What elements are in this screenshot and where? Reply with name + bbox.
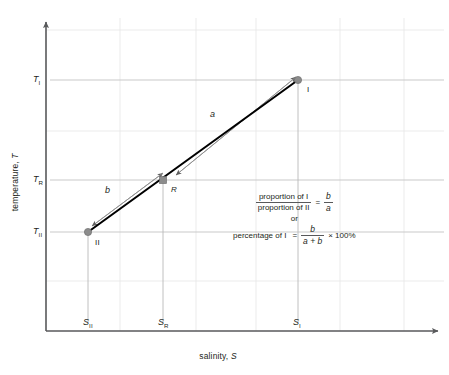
point-label-R: R xyxy=(171,186,177,194)
b-over-a-fraction: b a xyxy=(324,191,333,213)
rhs-numerator-b: b xyxy=(324,191,333,202)
segment-label-b: b xyxy=(105,186,110,195)
equals-sign-one: = xyxy=(311,198,324,207)
axis-lines xyxy=(46,22,438,331)
plot-canvas xyxy=(0,0,449,375)
x-tick-label-S-two: SII xyxy=(83,318,93,329)
formula-row-proportion: proportion of I proportion of II = b a xyxy=(233,191,356,213)
marker-point-R xyxy=(160,177,167,184)
grid-lines xyxy=(46,18,444,331)
proportion-fraction: proportion of I proportion of II xyxy=(256,192,312,213)
ts-mixing-diagram: TI TR TII SII SR SI I R II a b temperatu… xyxy=(0,0,449,375)
y-tick-label-T-R: TR xyxy=(33,175,43,186)
segment-label-a: a xyxy=(210,110,215,119)
pct-numerator-b: b xyxy=(308,224,317,235)
marker-point-two xyxy=(84,228,91,235)
equals-sign-two: = xyxy=(288,231,301,240)
x-tick-label-S-one: SI xyxy=(293,318,301,329)
pct-denominator-a-plus-b: a + b xyxy=(301,235,324,247)
point-label-one: I xyxy=(307,86,309,94)
point-label-two: II xyxy=(95,239,100,247)
y-tick-label-T-two: TII xyxy=(33,227,42,238)
proportion-denominator: proportion of II xyxy=(256,202,312,213)
y-tick-label-T-one: TI xyxy=(33,75,40,86)
proportion-formula-annotation: proportion of I proportion of II = b a o… xyxy=(233,191,356,246)
percentage-label: percentage of I xyxy=(233,231,288,240)
formula-or-connector: or xyxy=(233,213,356,224)
proportion-numerator: proportion of I xyxy=(257,192,310,202)
marker-point-one xyxy=(294,76,301,83)
rhs-denominator-a: a xyxy=(324,202,333,214)
arrow-segment-b-back xyxy=(92,173,163,226)
x-tick-label-S-R: SR xyxy=(158,318,169,329)
x-axis-title: salinity, S xyxy=(163,352,273,361)
formula-row-percentage: percentage of I = b a + b × 100% xyxy=(233,224,356,246)
y-axis-title: temperature, T xyxy=(11,134,20,230)
b-over-a-plus-b-fraction: b a + b xyxy=(301,224,324,246)
times-hundred-percent: × 100% xyxy=(324,231,355,240)
